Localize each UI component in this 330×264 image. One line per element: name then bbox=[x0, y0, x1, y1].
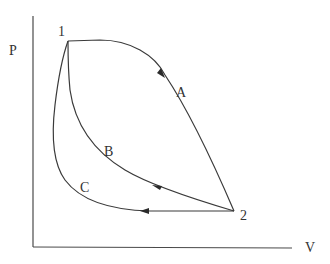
path-c: C bbox=[53, 41, 234, 214]
label-a: A bbox=[176, 85, 187, 100]
arrow-b-icon bbox=[152, 185, 162, 190]
curve-b bbox=[68, 41, 234, 211]
curve-a bbox=[68, 40, 234, 211]
pv-diagram: P V A B C 1 2 bbox=[0, 0, 330, 264]
point-2-label: 2 bbox=[240, 208, 247, 223]
path-a: A bbox=[68, 40, 234, 211]
arrow-c-icon bbox=[140, 208, 149, 214]
path-b: B bbox=[68, 41, 234, 211]
x-axis-label: V bbox=[305, 240, 315, 255]
y-axis-label: P bbox=[9, 43, 17, 58]
axes: P V bbox=[9, 16, 315, 255]
point-1-label: 1 bbox=[58, 24, 65, 39]
label-b: B bbox=[104, 144, 113, 159]
label-c: C bbox=[80, 180, 89, 195]
x-axis bbox=[33, 247, 292, 248]
